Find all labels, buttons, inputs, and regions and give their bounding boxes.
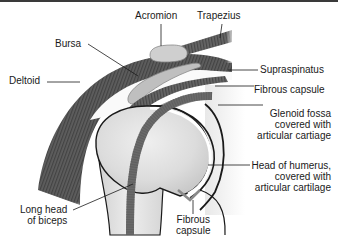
label-glenoid-fossa: Glenoid fossa covered with articular car… xyxy=(257,108,331,141)
shoulder-anatomy-diagram: Acromion Trapezius Bursa Deltoid Suprasp… xyxy=(0,0,338,248)
label-supraspinatus: Supraspinatus xyxy=(260,64,324,75)
label-bursa: Bursa xyxy=(55,38,81,49)
acromion-bone xyxy=(150,45,187,62)
label-long-head-biceps: Long head of biceps xyxy=(20,204,67,226)
label-head-of-humerus: Head of humerus, covered with articular … xyxy=(252,160,332,193)
label-deltoid: Deltoid xyxy=(9,75,40,86)
label-fibrous-capsule-bottom: Fibrous capsule xyxy=(176,214,210,236)
label-trapezius: Trapezius xyxy=(197,10,241,21)
label-fibrous-capsule-top: Fibrous capsule xyxy=(254,84,325,95)
label-acromion: Acromion xyxy=(135,10,177,21)
